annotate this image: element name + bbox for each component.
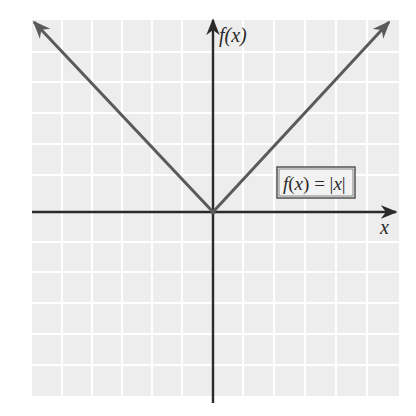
y-axis-label: f(x) bbox=[219, 24, 247, 47]
x-axis-label: x bbox=[379, 216, 389, 238]
absolute-value-graph: f(x) x f(x) = |x| bbox=[0, 0, 416, 416]
equation-label: f(x) = |x| bbox=[283, 173, 346, 195]
vertex-point bbox=[211, 210, 216, 215]
